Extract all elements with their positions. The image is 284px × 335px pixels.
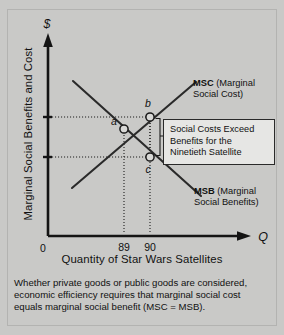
point-c-marker [146, 153, 154, 161]
callout-line-1: Social Costs Exceed [170, 124, 269, 136]
y-axis-arrowhead [43, 33, 53, 47]
point-b-marker [146, 113, 154, 121]
msb-legend-rest: (Marginal [215, 186, 256, 196]
msb-legend-label: MSB (Marginal Social Benefits) [194, 186, 259, 209]
figure-caption: Whether private goods or public goods ar… [14, 277, 272, 313]
msb-legend-line2: Social Benefits) [194, 197, 259, 208]
point-c-label: c [145, 163, 151, 175]
callout-bracket [156, 119, 164, 156]
point-a-marker [120, 125, 128, 133]
msb-legend-abbrev: MSB [194, 186, 215, 196]
x-axis-title: Quantity of Star Wars Satellites [8, 253, 276, 265]
msc-legend-label: MSC (Marginal Social Cost) [193, 78, 255, 101]
msc-legend-line2: Social Cost) [193, 89, 255, 100]
callout-line-2: Benefits for the [170, 136, 269, 148]
figure-container: a b c $ Q 0 89 90 Marginal Social Benefi… [0, 0, 284, 335]
x-axis-symbol: Q [258, 230, 268, 244]
callout-line-3: Ninetieth Satellite [170, 147, 269, 159]
point-a-label: a [111, 115, 117, 127]
caption-line-2: economic efficiency requires that margin… [14, 289, 272, 301]
caption-line-1: Whether private goods or public goods ar… [14, 277, 272, 289]
y-axis-symbol: $ [43, 17, 52, 31]
caption-line-3: equals marginal social benefit (MSC = MS… [14, 301, 272, 313]
x-axis-arrowhead [237, 231, 251, 241]
msc-legend-rest: (Marginal [214, 78, 255, 88]
y-axis-title: Marginal Social Benefits and Cost [22, 29, 34, 239]
annotation-callout-box: Social Costs Exceed Benefits for the Nin… [163, 119, 275, 165]
msc-legend-abbrev: MSC [193, 78, 214, 88]
x-tick-label-89: 89 [118, 241, 130, 253]
point-b-label: b [145, 97, 151, 109]
x-tick-label-90: 90 [144, 241, 156, 253]
